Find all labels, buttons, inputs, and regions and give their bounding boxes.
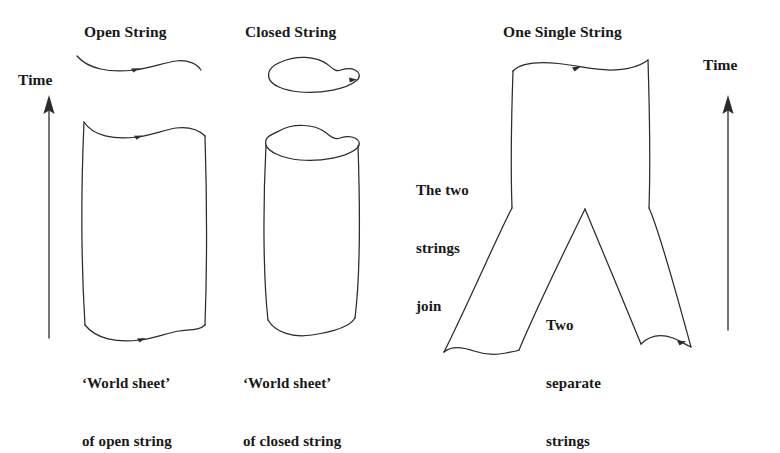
label-one-single-string-title: One Single String [503, 22, 622, 42]
caption-open-worldsheet-line2: of open string [82, 432, 172, 451]
label-open-string-title: Open String [84, 22, 167, 42]
annotation-strings-join-line2: strings [416, 239, 469, 258]
label-time-axis-right: Time [703, 55, 738, 75]
caption-closed-worldsheet: ‘World sheet’ of closed string [243, 336, 341, 453]
annotation-strings-join-line3: join [416, 297, 469, 316]
annotation-strings-join-line1: The two [416, 181, 469, 200]
caption-closed-worldsheet-line2: of closed string [243, 432, 341, 451]
label-time-axis-left: Time [18, 70, 53, 90]
label-closed-string-title: Closed String [245, 22, 336, 42]
caption-open-worldsheet: ‘World sheet’ of open string [82, 336, 172, 453]
annotation-two-separate-strings: Two separate strings [546, 278, 601, 453]
annotation-two-separate-strings-line3: strings [546, 432, 601, 451]
annotation-strings-join: The two strings join [416, 143, 469, 335]
caption-open-worldsheet-line1: ‘World sheet’ [82, 374, 172, 393]
caption-closed-worldsheet-line1: ‘World sheet’ [243, 374, 341, 393]
annotation-two-separate-strings-line2: separate [546, 374, 601, 393]
annotation-two-separate-strings-line1: Two [546, 316, 601, 335]
